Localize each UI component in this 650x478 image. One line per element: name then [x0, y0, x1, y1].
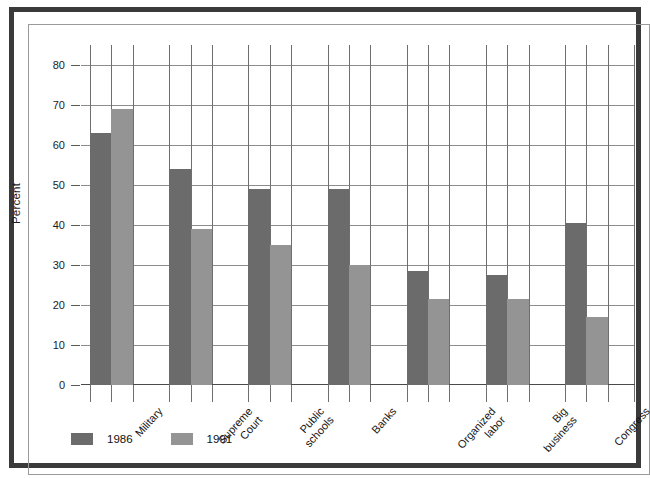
- x-axis-tick: [90, 385, 91, 402]
- gridline-horizontal: [81, 65, 635, 66]
- y-axis-tick: [71, 185, 80, 186]
- y-axis-tick-label: 30: [39, 260, 65, 271]
- plot-area: [81, 45, 635, 385]
- x-axis-tick: [291, 385, 292, 402]
- y-axis-tick: [71, 65, 80, 66]
- y-axis-tick-label: 80: [39, 60, 65, 71]
- gridline-vertical: [634, 45, 635, 385]
- y-axis-tick: [71, 145, 80, 146]
- gridline-horizontal: [81, 105, 635, 106]
- x-axis-tick: [191, 385, 192, 402]
- y-axis-tick-label: 60: [39, 140, 65, 151]
- x-axis-tick: [608, 385, 609, 402]
- y-axis-tick: [71, 265, 80, 266]
- bar: [407, 271, 428, 385]
- x-axis-tick: [407, 385, 408, 402]
- x-axis-tick: [586, 385, 587, 402]
- bar: [428, 299, 449, 385]
- gridline-vertical: [608, 45, 609, 385]
- x-axis-category-label: SupremeCourt: [215, 405, 263, 455]
- legend-item: 1991: [171, 433, 271, 445]
- legend-swatch: [71, 433, 93, 445]
- x-axis-category-label: Bigbusiness: [532, 405, 580, 454]
- gridline-vertical: [133, 45, 134, 385]
- y-axis-tick-label: 10: [39, 340, 65, 351]
- x-axis-tick: [248, 385, 249, 402]
- x-axis-category-label: Banks: [369, 405, 399, 436]
- legend-item: 1986: [71, 433, 171, 445]
- x-axis-tick: [507, 385, 508, 402]
- x-axis-category-label: Congress: [612, 405, 650, 448]
- x-axis-tick: [212, 385, 213, 402]
- x-axis-tick: [370, 385, 371, 402]
- y-axis-title: Percent: [10, 183, 22, 224]
- x-axis-tick: [169, 385, 170, 402]
- gridline-horizontal: [81, 225, 635, 226]
- y-axis-tick: [71, 385, 80, 386]
- bar: [328, 189, 349, 385]
- x-axis-category-label: Organizedlabor: [455, 405, 508, 459]
- legend-label: 1986: [107, 433, 133, 445]
- y-axis-tick: [71, 105, 80, 106]
- bar: [111, 109, 132, 385]
- y-axis-tick-label: 70: [39, 100, 65, 111]
- y-axis-tick-label: 0: [39, 380, 65, 391]
- x-axis-tick: [486, 385, 487, 402]
- chart-figure: Percent 01020304050607080 MilitarySuprem…: [0, 0, 650, 478]
- legend-swatch: [171, 433, 193, 445]
- bar: [586, 317, 607, 385]
- x-axis-category-label: Publicschools: [292, 405, 336, 449]
- x-axis-tick: [634, 385, 635, 402]
- x-axis-tick: [270, 385, 271, 402]
- bar: [169, 169, 190, 385]
- bar: [349, 265, 370, 385]
- x-axis-tick: [328, 385, 329, 402]
- bar: [565, 223, 586, 385]
- bar: [248, 189, 269, 385]
- bar: [270, 245, 291, 385]
- bar: [191, 229, 212, 385]
- x-axis-label-line: Congress: [612, 405, 650, 448]
- bar: [486, 275, 507, 385]
- y-axis-tick: [71, 225, 80, 226]
- legend-label: 1991: [207, 433, 233, 445]
- chart-legend: 19861991: [71, 433, 270, 445]
- gridline-vertical: [529, 45, 530, 385]
- gridline-vertical: [291, 45, 292, 385]
- gridline-horizontal: [81, 145, 635, 146]
- y-axis-tick-label: 40: [39, 220, 65, 231]
- y-axis-tick-label: 20: [39, 300, 65, 311]
- gridline-vertical: [212, 45, 213, 385]
- gridline-horizontal: [81, 185, 635, 186]
- x-axis-tick: [133, 385, 134, 402]
- bar: [507, 299, 528, 385]
- figure-frame: Percent 01020304050607080 MilitarySuprem…: [9, 7, 641, 468]
- x-axis-tick: [428, 385, 429, 402]
- y-axis-tick: [71, 305, 80, 306]
- bar: [90, 133, 111, 385]
- x-axis-tick: [449, 385, 450, 402]
- x-axis-tick: [529, 385, 530, 402]
- x-axis-label-line: Banks: [369, 405, 399, 436]
- x-axis-tick: [349, 385, 350, 402]
- x-axis-tick: [111, 385, 112, 402]
- y-axis-tick: [71, 345, 80, 346]
- y-axis-tick-label: 50: [39, 180, 65, 191]
- x-axis-tick: [565, 385, 566, 402]
